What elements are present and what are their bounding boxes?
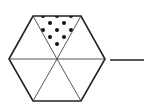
division-line (57, 59, 81, 101)
division-line (57, 16, 81, 59)
shading-dot (62, 35, 66, 39)
figure (0, 0, 151, 106)
shading-dot (48, 21, 52, 25)
shading-dot (48, 35, 52, 39)
division-line (33, 59, 57, 101)
shading-dot (62, 21, 66, 25)
hexagon-diagram (0, 0, 151, 106)
dot-pattern (41, 14, 73, 46)
shading-dot (55, 42, 59, 46)
division-line (33, 16, 57, 59)
shading-dot (55, 28, 59, 32)
